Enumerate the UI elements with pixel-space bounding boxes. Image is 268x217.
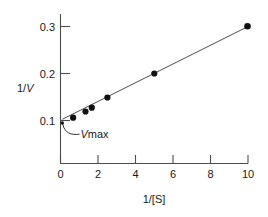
vmax-intercept-point [61,121,64,124]
vmax-plain-part: max [88,128,109,140]
chart-page: 0.3 0.2 0.1 0 2 4 6 8 10 1/V 1/[S] [0,0,268,217]
data-point-4 [104,94,110,100]
y-axis-title: 1/V [17,82,35,94]
x-tick-label-6: 6 [170,168,176,180]
x-tick-label-8: 8 [207,168,213,180]
x-tick-label-0: 0 [57,168,63,180]
vmax-leader-line [63,124,80,134]
y-axis-title-variable: V [26,82,35,94]
x-tick-label-10: 10 [242,168,254,180]
y-tick-label-0.3: 0.3 [40,21,55,33]
data-point-1 [70,115,76,121]
data-point-2 [82,108,88,114]
y-tick-label-0.2: 0.2 [40,68,55,80]
data-point-5 [151,70,157,76]
data-point-3 [89,105,95,111]
vmax-annotation-label: Vmax [81,128,110,140]
lineweaver-burk-plot: 0.3 0.2 0.1 0 2 4 6 8 10 1/V 1/[S] [0,0,268,217]
data-point-6 [244,23,251,30]
x-tick-label-2: 2 [95,168,101,180]
y-tick-label-0.1: 0.1 [40,115,55,127]
x-tick-label-4: 4 [132,168,138,180]
x-axis-title: 1/[S] [143,193,166,205]
